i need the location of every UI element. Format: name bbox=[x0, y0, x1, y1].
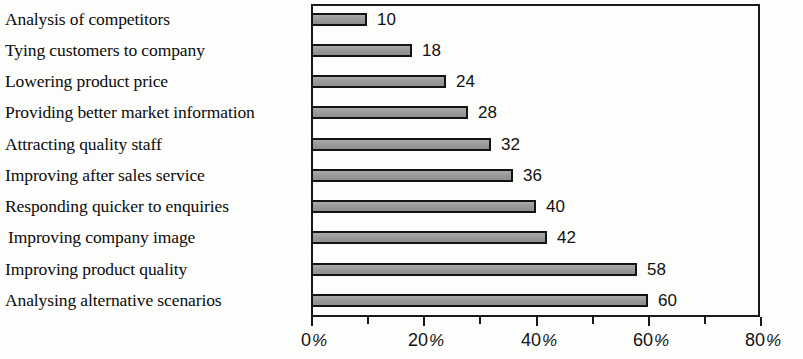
axis-tick-minor bbox=[592, 317, 594, 324]
category-label: Responding quicker to enquiries bbox=[5, 198, 229, 216]
bar bbox=[311, 263, 637, 276]
bar-value-label: 36 bbox=[523, 167, 542, 184]
category-label: Lowering product price bbox=[5, 73, 168, 91]
bar bbox=[311, 138, 491, 151]
category-label: Attracting quality staff bbox=[5, 136, 162, 154]
axis-tick-major bbox=[423, 317, 425, 326]
axis-tick-number: 0 bbox=[301, 330, 311, 350]
axis-tick-label: 80% bbox=[745, 331, 781, 349]
axis-tick-major bbox=[536, 317, 538, 326]
bar-value-label: 24 bbox=[456, 73, 475, 90]
category-label: Analysis of competitors bbox=[5, 11, 170, 29]
bar bbox=[311, 13, 367, 26]
horizontal-bar-chart: Analysis of competitors Tying customers … bbox=[0, 0, 803, 359]
percent-sign: % bbox=[428, 331, 444, 350]
bar bbox=[311, 294, 648, 307]
percent-sign: % bbox=[311, 331, 327, 350]
bar bbox=[311, 106, 468, 119]
category-label: Tying customers to company bbox=[5, 42, 205, 60]
category-label: Analysing alternative scenarios bbox=[5, 292, 222, 310]
axis-tick-label: 0% bbox=[301, 331, 327, 349]
axis-tick-label: 20% bbox=[408, 331, 444, 349]
axis-tick-number: 60 bbox=[633, 330, 653, 350]
axis-tick-label: 40% bbox=[521, 331, 557, 349]
category-label: Providing better market information bbox=[5, 104, 255, 122]
bar bbox=[311, 200, 536, 213]
bar bbox=[311, 75, 446, 88]
percent-sign: % bbox=[541, 331, 557, 350]
axis-tick-major bbox=[311, 317, 313, 326]
bar-value-label: 60 bbox=[658, 292, 677, 309]
axis-tick-major bbox=[648, 317, 650, 326]
bar-value-label: 42 bbox=[557, 229, 576, 246]
axis-tick-minor bbox=[367, 317, 369, 324]
bar bbox=[311, 231, 547, 244]
bar bbox=[311, 169, 513, 182]
axis-tick-number: 80 bbox=[745, 330, 765, 350]
bar bbox=[311, 44, 412, 57]
category-label: Improving company image bbox=[8, 229, 195, 247]
bar-value-label: 18 bbox=[422, 42, 441, 59]
category-label: Improving product quality bbox=[5, 261, 187, 279]
bar-value-label: 32 bbox=[501, 136, 520, 153]
category-label: Improving after sales service bbox=[5, 167, 205, 185]
bar-value-label: 40 bbox=[546, 198, 565, 215]
bar-value-label: 58 bbox=[647, 261, 666, 278]
bar-value-label: 28 bbox=[478, 104, 497, 121]
axis-tick-number: 40 bbox=[521, 330, 541, 350]
axis-tick-minor bbox=[704, 317, 706, 324]
axis-tick-minor bbox=[479, 317, 481, 324]
axis-tick-number: 20 bbox=[408, 330, 428, 350]
bar-value-label: 10 bbox=[377, 11, 396, 28]
percent-sign: % bbox=[653, 331, 669, 350]
axis-tick-label: 60% bbox=[633, 331, 669, 349]
percent-sign: % bbox=[765, 331, 781, 350]
axis-tick-major bbox=[760, 317, 762, 326]
